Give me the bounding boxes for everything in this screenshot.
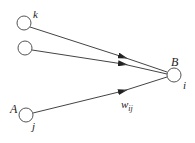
node-k (17, 16, 31, 30)
label-a: A (9, 102, 18, 116)
edge-middle-to-b (32, 50, 167, 74)
label-j: j (30, 120, 35, 132)
edge-k-to-b (30, 27, 167, 72)
label-b: B (171, 55, 179, 69)
node-b (167, 68, 181, 82)
label-i: i (183, 79, 186, 91)
node-a (19, 108, 33, 122)
label-weight: wij (121, 98, 134, 113)
edge-a-to-b (33, 77, 167, 113)
network-diagram: k A j B i wij (0, 0, 195, 143)
node-middle (18, 41, 32, 55)
label-weight-sub: ij (128, 104, 133, 113)
label-k: k (33, 8, 39, 20)
